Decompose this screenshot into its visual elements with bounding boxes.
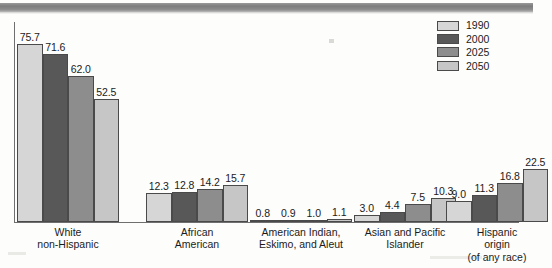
bar-value-label: 12.8 [174,179,194,191]
bar[interactable]: 0.9 [276,220,302,222]
bar[interactable]: 52.5 [94,99,120,222]
bar[interactable]: 75.7 [17,44,43,222]
bar[interactable]: 11.3 [472,195,498,222]
bar-value-label: 0.9 [281,207,295,219]
bar-value-label: 1.0 [307,207,321,219]
bar[interactable]: 4.4 [380,212,406,222]
bar-value-label: 3.0 [360,202,374,214]
legend-label: 2000 [466,34,489,45]
category-label: American Indian, Eskimo, and Aleut [241,226,361,251]
bar-value-label: 7.5 [411,191,425,203]
bar-value-label: 0.8 [256,207,270,219]
bar[interactable]: 15.7 [223,185,249,222]
bar-value-label: 71.6 [45,41,65,53]
bar[interactable]: 7.5 [405,204,431,222]
bar-value-label: 4.4 [385,199,399,211]
legend-item[interactable]: 2000 [437,32,529,45]
bar-group: 12.312.814.215.7 [146,22,248,222]
chart-legend: 1990200020252050 [437,19,529,73]
legend-swatch [437,34,459,44]
bar[interactable]: 3.0 [354,215,380,222]
page-header-rule [0,3,533,12]
bar-value-label: 16.8 [500,170,520,182]
bar-value-label: 62.0 [71,63,91,75]
legend-label: 2050 [466,61,489,72]
bar-value-label: 52.5 [96,86,116,98]
bar-group: 75.771.662.052.5 [17,22,119,222]
bar[interactable]: 9.0 [446,201,472,222]
bar[interactable]: 1.1 [327,219,353,222]
bar-value-label: 14.2 [200,176,220,188]
bar-value-label: 11.3 [475,182,494,194]
legend-label: 2025 [466,47,489,58]
scan-speck [8,252,26,255]
bar-value-label: 75.7 [20,31,40,43]
page-header-rule-shadow [0,12,533,14]
bar[interactable]: 62.0 [68,76,94,222]
bar-group: 0.80.91.01.1 [250,22,352,222]
category-label: African American [137,226,257,251]
bar[interactable]: 14.2 [197,189,223,222]
bar-value-label: 12.3 [149,180,169,192]
x-axis-line [14,222,519,223]
legend-swatch [437,21,459,31]
legend-item[interactable]: 2050 [437,59,529,72]
legend-label: 1990 [466,20,489,31]
category-label: White non-Hispanic [8,226,128,251]
bar-value-label: 22.5 [525,156,545,168]
bar-value-label: 15.7 [225,172,245,184]
legend-swatch [437,47,459,57]
legend-item[interactable]: 2025 [437,46,529,59]
bar[interactable]: 16.8 [497,183,523,223]
bar[interactable]: 22.5 [523,169,549,222]
bar[interactable]: 71.6 [43,54,69,222]
legend-item[interactable]: 1990 [437,19,529,32]
legend-swatch [437,61,459,71]
y-axis-line [14,22,15,222]
bar[interactable]: 1.0 [301,220,327,222]
category-label: Hispanic origin (of any race) [437,226,552,263]
bar-value-label: 9.0 [452,188,466,200]
bar[interactable]: 12.8 [172,192,198,222]
bar[interactable]: 12.3 [146,193,172,222]
bar-value-label: 1.1 [332,206,346,218]
bar[interactable]: 0.8 [250,220,276,222]
